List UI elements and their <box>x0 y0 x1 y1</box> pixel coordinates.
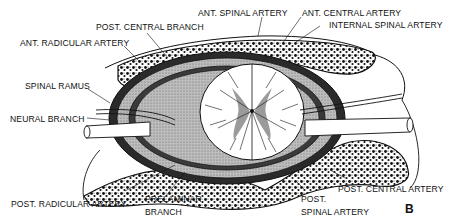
label-ant-radicular-artery: ANT. RADICULAR ARTERY <box>20 38 129 48</box>
label-post-central-artery: POST. CENTRAL ARTERY <box>338 184 443 194</box>
left-nerve-root <box>84 122 150 138</box>
label-prelaminar-branch-line1: PRELAMINAR <box>145 194 202 204</box>
label-post-spinal-artery-line2: SPINAL ARTERY <box>301 207 369 217</box>
label-internal-spinal-artery: INTERNAL SPINAL ARTERY <box>329 20 442 30</box>
label-neural-branch: NEURAL BRANCH <box>10 114 85 124</box>
label-ant-spinal-artery: ANT. SPINAL ARTERY <box>198 8 288 18</box>
label-prelaminar-branch-line2: BRANCH <box>145 207 182 217</box>
panel-letter: B <box>405 202 414 216</box>
label-ant-central-artery: ANT. CENTRAL ARTERY <box>302 8 401 18</box>
label-spinal-ramus: SPINAL RAMUS <box>25 81 90 91</box>
right-nerve-root <box>305 118 413 136</box>
label-post-central-branch: POST. CENTRAL BRANCH <box>96 22 204 32</box>
label-post-radicular-artery: POST. RADICULAR ARTERY <box>11 199 127 209</box>
label-post-spinal-artery-line1: POST. <box>301 194 326 204</box>
